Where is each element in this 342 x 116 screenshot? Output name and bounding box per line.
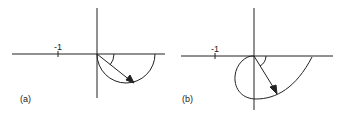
panel-label-b: (b) [182, 94, 193, 104]
angle-arc-b [260, 56, 266, 66]
panel-b [181, 8, 333, 110]
panel-a [12, 8, 165, 98]
locus-curve-a [97, 54, 155, 83]
diagram-canvas: -1 (a) -1 (b) [0, 0, 342, 116]
angle-arc-a [110, 54, 114, 65]
arrowhead-b [270, 85, 277, 94]
locus-curve-b [235, 56, 312, 99]
arrowhead-a [126, 75, 134, 83]
tick-label-a: -1 [54, 42, 62, 52]
tick-label-b: -1 [211, 44, 219, 54]
panel-label-a: (a) [20, 94, 31, 104]
